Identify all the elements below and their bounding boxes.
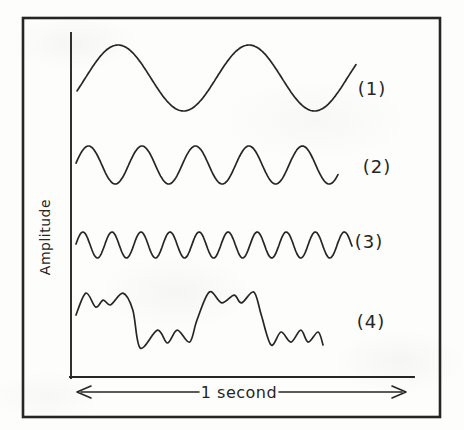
- waveform-4-composite: [76, 292, 323, 349]
- amplitude-axis-label: Amplitude: [37, 199, 53, 275]
- waveform-3-sine-10hz: [76, 232, 352, 258]
- waveform-4-label: (4): [357, 311, 386, 332]
- waveform-1-sine-2hz: [77, 45, 356, 111]
- waveform-2-sine-5hz: [76, 146, 338, 184]
- scanned-waveform-figure: (1) (2) (3) (4) Amplitude 1 second: [0, 0, 464, 430]
- waveform-3-label: (3): [355, 231, 384, 252]
- time-span-label: 1 second: [201, 383, 277, 402]
- waveform-1-label: (1): [358, 78, 387, 99]
- waveform-2-label: (2): [363, 156, 392, 177]
- waveform-chart: (1) (2) (3) (4) Amplitude 1 second: [0, 0, 464, 430]
